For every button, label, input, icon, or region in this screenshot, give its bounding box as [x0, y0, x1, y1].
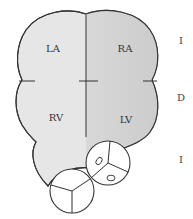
right-side-shading	[86, 0, 193, 219]
chamber-label-ra: RA	[118, 43, 134, 54]
heart-outline	[16, 0, 193, 219]
side-label-top: I	[179, 35, 183, 46]
side-label-bottom: I	[179, 154, 183, 165]
heart-diagram: LA RA RV LV I D I	[0, 0, 193, 219]
pulmonary-valve	[50, 169, 94, 213]
side-label-middle: D	[177, 92, 185, 103]
chamber-label-la: LA	[46, 43, 61, 54]
chamber-label-rv: RV	[49, 112, 64, 123]
chamber-label-lv: LV	[120, 114, 133, 125]
aortic-valve	[86, 141, 130, 185]
